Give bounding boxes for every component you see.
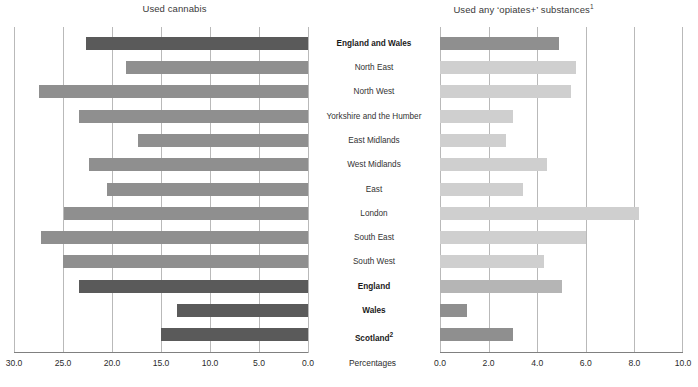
category-label-column: England and WalesNorth EastNorth WestYor… bbox=[308, 27, 440, 353]
category-label: South East bbox=[308, 231, 440, 244]
right-bar-row bbox=[440, 280, 683, 293]
left-panel-title-text: Used cannabis bbox=[142, 3, 206, 14]
right-bar-group bbox=[440, 27, 683, 353]
left-bar-row bbox=[14, 328, 308, 341]
left-bar-row bbox=[14, 207, 308, 220]
right-bar-row bbox=[440, 183, 683, 196]
right-bar-row bbox=[440, 37, 683, 50]
left-bar-row bbox=[14, 231, 308, 244]
left-bar-row bbox=[14, 85, 308, 98]
right-bar-row bbox=[440, 207, 683, 220]
axis-caption: Percentages bbox=[349, 358, 435, 368]
bar[interactable] bbox=[41, 231, 308, 244]
category-label: Wales bbox=[308, 304, 440, 317]
axis-tick-label: 20.0 bbox=[104, 358, 121, 368]
bar[interactable] bbox=[79, 110, 308, 123]
axis-tick-label: 15.0 bbox=[153, 358, 170, 368]
axis-tick-label: 6.0 bbox=[580, 358, 592, 368]
category-label: England and Wales bbox=[308, 37, 440, 50]
left-bar-row bbox=[14, 183, 308, 196]
left-panel-title: Used cannabis bbox=[0, 3, 349, 14]
left-bar-row bbox=[14, 280, 308, 293]
left-bar-row bbox=[14, 61, 308, 74]
category-label: North West bbox=[308, 85, 440, 98]
bar[interactable] bbox=[440, 280, 562, 293]
left-bar-row bbox=[14, 158, 308, 171]
left-bar-row bbox=[14, 304, 308, 317]
right-bar-row bbox=[440, 158, 683, 171]
axis-tick-label: 0.0 bbox=[302, 358, 314, 368]
axis-tick-label: 2.0 bbox=[483, 358, 495, 368]
chart-page: Used cannabis Used any ‘opiates+’ substa… bbox=[0, 0, 698, 387]
category-label: West Midlands bbox=[308, 158, 440, 171]
right-axis-ticks: 0.02.04.06.08.010.0 bbox=[440, 358, 683, 372]
bar[interactable] bbox=[39, 85, 308, 98]
left-bar-row bbox=[14, 255, 308, 268]
bar[interactable] bbox=[126, 61, 308, 74]
right-panel-title-text: Used any ‘opiates+’ substances bbox=[453, 4, 590, 15]
category-label: Yorkshire and the Humber bbox=[308, 110, 440, 123]
category-label: Scotland2 bbox=[308, 328, 440, 341]
bar[interactable] bbox=[440, 304, 467, 317]
right-bar-row bbox=[440, 304, 683, 317]
category-label: South West bbox=[308, 255, 440, 268]
bar[interactable] bbox=[161, 328, 308, 341]
left-bar-row bbox=[14, 37, 308, 50]
right-bar-row bbox=[440, 255, 683, 268]
bar[interactable] bbox=[138, 134, 308, 147]
right-bar-row bbox=[440, 231, 683, 244]
left-bar-group bbox=[14, 27, 308, 353]
category-label: North East bbox=[308, 61, 440, 74]
bar[interactable] bbox=[440, 158, 547, 171]
bar[interactable] bbox=[64, 207, 308, 220]
axis-tick-label: 30.0 bbox=[6, 358, 23, 368]
bar[interactable] bbox=[440, 255, 544, 268]
bar[interactable] bbox=[63, 255, 308, 268]
axis-tick-label: 8.0 bbox=[628, 358, 640, 368]
left-axis-ticks: 30.025.020.015.010.05.00.0 bbox=[14, 358, 308, 372]
bar[interactable] bbox=[89, 158, 308, 171]
axis-tick-label: 4.0 bbox=[531, 358, 543, 368]
right-panel-title: Used any ‘opiates+’ substances1 bbox=[349, 3, 698, 15]
bar[interactable] bbox=[79, 280, 308, 293]
category-label: London bbox=[308, 207, 440, 220]
category-label: England bbox=[308, 280, 440, 293]
right-bar-row bbox=[440, 85, 683, 98]
bar[interactable] bbox=[440, 328, 513, 341]
category-label-footnote: 2 bbox=[389, 331, 393, 338]
bar[interactable] bbox=[177, 304, 308, 317]
bar[interactable] bbox=[440, 183, 523, 196]
right-bar-row bbox=[440, 134, 683, 147]
bar[interactable] bbox=[440, 207, 639, 220]
bar[interactable] bbox=[440, 61, 576, 74]
axis-tick-label: 5.0 bbox=[253, 358, 265, 368]
left-bar-row bbox=[14, 110, 308, 123]
category-label: East Midlands bbox=[308, 134, 440, 147]
bar[interactable] bbox=[86, 37, 308, 50]
right-bar-row bbox=[440, 61, 683, 74]
right-bar-row bbox=[440, 328, 683, 341]
axis-tick-label: 10.0 bbox=[202, 358, 219, 368]
right-bar-row bbox=[440, 110, 683, 123]
bar[interactable] bbox=[440, 110, 513, 123]
bar[interactable] bbox=[107, 183, 308, 196]
axis-tick-label: 25.0 bbox=[55, 358, 72, 368]
bar[interactable] bbox=[440, 231, 586, 244]
bar[interactable] bbox=[440, 37, 559, 50]
category-label: East bbox=[308, 183, 440, 196]
bar[interactable] bbox=[440, 134, 506, 147]
axis-tick-label: 10.0 bbox=[675, 358, 692, 368]
right-panel-title-footnote: 1 bbox=[590, 3, 594, 10]
axis-tick-label: 0.0 bbox=[434, 358, 446, 368]
bar[interactable] bbox=[440, 85, 571, 98]
left-bar-row bbox=[14, 134, 308, 147]
